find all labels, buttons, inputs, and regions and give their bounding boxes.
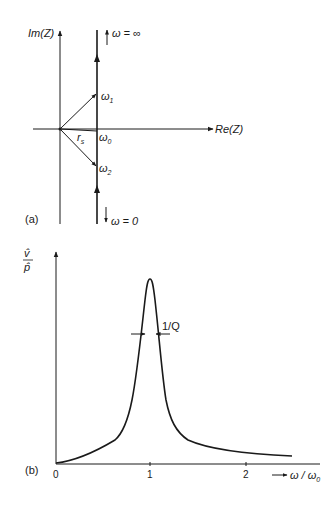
resonance-curve [56,279,292,463]
re-axis-label: Re(Z) [215,123,243,135]
x-axis-label: ω / ω0 [290,469,320,483]
omega-inf-label: ω = ∞ [112,27,141,39]
omega1-label: ω1 [101,90,114,104]
omega2-label: ω2 [99,162,112,176]
locus-arrow-upper [94,54,100,62]
x-tick-label-2: 2 [243,469,249,480]
im-axis-label: Im(Z) [28,27,55,39]
y-axis-label-denominator: p̂ [23,261,30,273]
origin-dot [59,128,62,131]
y-axis-label-numerator: v̂ [24,247,31,259]
panel-b-tag: (b) [25,464,38,476]
omega-zero-label: ω = 0 [111,215,139,227]
panel-a: Im(Z) ω = ∞ ω1 ω0 rs Re(Z) ω2 (a) ω = 0 [25,27,243,227]
locus-arrow-lower [94,185,100,193]
x-tick-label-0: 0 [53,469,59,480]
x-tick-label-1: 1 [147,469,153,480]
panel-a-tag: (a) [25,213,38,225]
panel-b: 1/Q v̂ p̂ 0 1 2 ω / ω0 (b) [23,247,320,483]
bandwidth-label: 1/Q [162,320,180,332]
omega0-label: ω0 [99,131,112,145]
figure-canvas: Im(Z) ω = ∞ ω1 ω0 rs Re(Z) ω2 (a) ω = 0 … [0,0,331,505]
rs-label: rs [77,131,85,145]
vector-omega1 [60,94,96,129]
